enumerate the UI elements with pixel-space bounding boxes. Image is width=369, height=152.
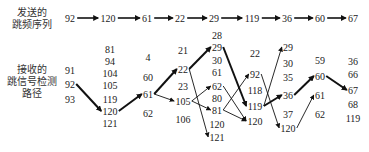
correct-path-arrow bbox=[223, 47, 246, 106]
grid-node: 22 bbox=[250, 48, 260, 59]
grid-node: 120 bbox=[281, 123, 296, 134]
sent-node: 36 bbox=[282, 13, 292, 24]
candidate-path-arrow bbox=[223, 74, 249, 110]
grid-node: 30 bbox=[212, 55, 222, 66]
candidate-path-arrow bbox=[189, 69, 208, 137]
sent-sequence-label: 发送的 跳频序列 bbox=[4, 7, 60, 31]
grid-node: 118 bbox=[248, 85, 263, 96]
grid-node: 92 bbox=[250, 69, 260, 80]
grid-node: 81 bbox=[105, 44, 115, 55]
correct-path-arrow bbox=[294, 76, 314, 95]
grid-node: 62 bbox=[315, 109, 325, 120]
sent-label-line-1: 发送的 bbox=[4, 7, 60, 19]
grid-node: 68 bbox=[348, 99, 358, 110]
received-label-line-3: 路径 bbox=[2, 88, 62, 100]
candidate-path-arrow bbox=[192, 101, 211, 110]
sent-label-line-2: 跳频序列 bbox=[4, 19, 60, 31]
grid-node: 120 bbox=[103, 106, 118, 117]
grid-node: 61 bbox=[212, 67, 222, 78]
frequency-hopping-diagram: 发送的 跳频序列 接收的 跳信号检测 路径 921206122291193660… bbox=[0, 0, 369, 152]
grid-node: 59 bbox=[315, 55, 325, 66]
received-label-line-1: 接收的 bbox=[2, 64, 62, 76]
candidate-path-arrow bbox=[264, 47, 282, 106]
correct-path-arrow bbox=[264, 95, 282, 106]
grid-node: 66 bbox=[348, 69, 358, 80]
grid-node: 21 bbox=[178, 45, 188, 56]
grid-node: 81 bbox=[212, 105, 222, 116]
grid-node: 22 bbox=[178, 64, 188, 75]
correct-path-arrow bbox=[76, 84, 101, 111]
sent-node: 120 bbox=[101, 13, 116, 24]
candidate-path-arrow bbox=[223, 110, 246, 121]
grid-node: 121 bbox=[210, 132, 225, 143]
grid-node: 36 bbox=[283, 90, 293, 101]
sent-node: 92 bbox=[65, 13, 75, 24]
grid-node: 61 bbox=[315, 90, 325, 101]
grid-node: 62 bbox=[212, 81, 222, 92]
grid-node: 92 bbox=[65, 79, 75, 90]
grid-node: 28 bbox=[212, 30, 222, 41]
sent-node: 29 bbox=[209, 13, 219, 24]
grid-node: 37 bbox=[283, 109, 293, 120]
correct-path-arrow bbox=[119, 94, 142, 111]
sent-node: 22 bbox=[175, 13, 185, 24]
grid-node: 61 bbox=[143, 89, 153, 100]
correct-path-arrow bbox=[326, 76, 347, 90]
grid-node: 105 bbox=[103, 80, 118, 91]
grid-node: 35 bbox=[283, 72, 293, 83]
grid-node: 67 bbox=[348, 85, 358, 96]
candidate-path-arrow bbox=[192, 86, 211, 101]
grid-node: 60 bbox=[143, 72, 153, 83]
grid-node: 104 bbox=[103, 68, 118, 79]
grid-node: 121 bbox=[103, 118, 118, 129]
grid-node: 94 bbox=[105, 56, 115, 67]
candidate-path-arrow bbox=[297, 95, 314, 128]
sent-node: 60 bbox=[315, 13, 325, 24]
sent-node: 119 bbox=[245, 13, 260, 24]
grid-node: 60 bbox=[315, 71, 325, 82]
received-path-label: 接收的 跳信号检测 路径 bbox=[2, 64, 62, 100]
grid-node: 119 bbox=[346, 113, 361, 124]
grid-node: 29 bbox=[283, 42, 293, 53]
correct-path-arrow bbox=[154, 69, 177, 94]
grid-node: 120 bbox=[210, 119, 225, 130]
grid-node: 80 bbox=[212, 93, 222, 104]
grid-node: 105 bbox=[176, 96, 191, 107]
candidate-path-arrow bbox=[154, 94, 174, 101]
grid-node: 120 bbox=[248, 116, 263, 127]
grid-node: 62 bbox=[143, 108, 153, 119]
grid-node: 23 bbox=[178, 81, 188, 92]
grid-node: 29 bbox=[212, 42, 222, 53]
sent-node: 61 bbox=[142, 13, 152, 24]
received-label-line-2: 跳信号检测 bbox=[2, 76, 62, 88]
grid-node: 119 bbox=[248, 101, 263, 112]
grid-node: 93 bbox=[65, 94, 75, 105]
grid-node: 30 bbox=[283, 58, 293, 69]
grid-node: 36 bbox=[348, 56, 358, 67]
sent-node: 67 bbox=[348, 13, 358, 24]
grid-node: 106 bbox=[176, 114, 191, 125]
grid-node: 91 bbox=[65, 65, 75, 76]
candidate-path-arrow bbox=[223, 86, 246, 121]
grid-node: 119 bbox=[103, 94, 118, 105]
correct-path-arrow bbox=[189, 47, 211, 69]
candidate-path-arrow bbox=[261, 74, 279, 128]
grid-node: 4 bbox=[146, 52, 151, 63]
